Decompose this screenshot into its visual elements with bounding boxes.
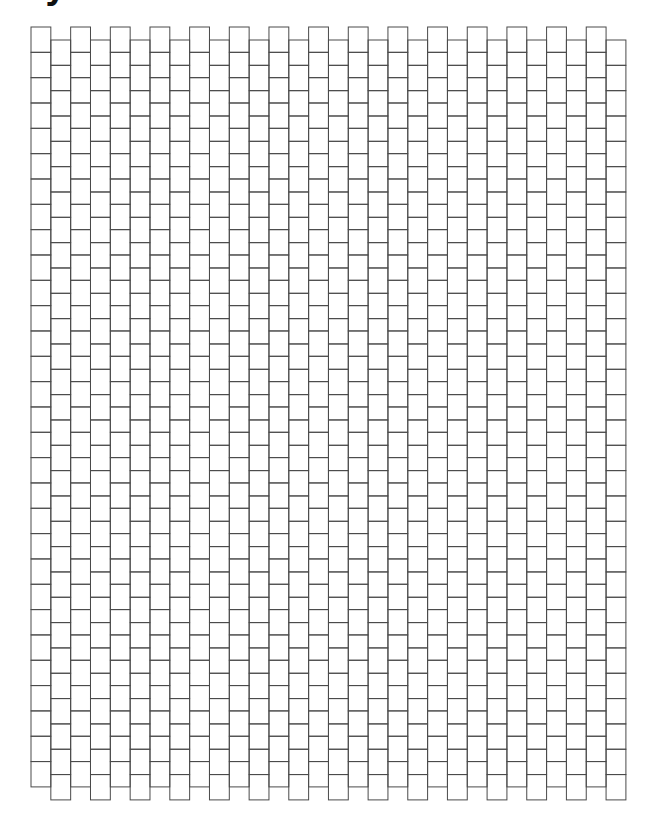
grid-cell	[31, 128, 51, 153]
grid-cell	[110, 660, 130, 685]
grid-cell	[408, 597, 428, 622]
grid-cell	[90, 699, 110, 724]
grid-cell	[328, 673, 348, 698]
grid-cell	[249, 749, 269, 774]
grid-cell	[289, 445, 309, 470]
grid-cell	[408, 116, 428, 141]
grid-cell	[507, 280, 527, 305]
grid-cell	[269, 255, 289, 280]
grid-cell	[547, 154, 567, 179]
grid-cell	[209, 521, 229, 546]
grid-cell	[467, 508, 487, 533]
grid-cell	[150, 610, 170, 635]
grid-cell	[487, 243, 507, 268]
grid-cell	[368, 420, 388, 445]
grid-cell	[388, 230, 408, 255]
grid-cell	[428, 686, 448, 711]
grid-cell	[190, 686, 210, 711]
grid-cell	[31, 255, 51, 280]
grid-cell	[190, 660, 210, 685]
grid-column	[368, 40, 388, 800]
grid-cell	[586, 356, 606, 381]
grid-cell	[190, 230, 210, 255]
grid-cell	[110, 280, 130, 305]
grid-cell	[71, 559, 91, 584]
grid-cell	[309, 356, 329, 381]
grid-cell	[31, 584, 51, 609]
grid-cell	[130, 673, 150, 698]
grid-cell	[428, 483, 448, 508]
grid-cell	[388, 356, 408, 381]
grid-cell	[229, 432, 249, 457]
grid-cell	[467, 635, 487, 660]
grid-cell	[566, 40, 586, 65]
grid-cell	[467, 154, 487, 179]
grid-cell	[408, 445, 428, 470]
grid-cell	[547, 610, 567, 635]
grid-cell	[487, 648, 507, 673]
grid-cell	[606, 65, 626, 90]
grid-cell	[71, 27, 91, 52]
grid-cell	[269, 711, 289, 736]
grid-cell	[51, 141, 71, 166]
grid-cell	[527, 699, 547, 724]
grid-cell	[586, 584, 606, 609]
grid-cell	[170, 445, 190, 470]
grid-cell	[328, 572, 348, 597]
grid-cell	[71, 736, 91, 761]
grid-cell	[90, 623, 110, 648]
grid-cell	[487, 40, 507, 65]
grid-cell	[447, 116, 467, 141]
grid-cell	[289, 648, 309, 673]
grid-cell	[487, 775, 507, 800]
grid-cell	[487, 673, 507, 698]
grid-cell	[289, 597, 309, 622]
grid-cell	[328, 192, 348, 217]
grid-cell	[269, 508, 289, 533]
grid-cell	[90, 445, 110, 470]
grid-cell	[51, 749, 71, 774]
grid-cell	[428, 382, 448, 407]
grid-cell	[348, 128, 368, 153]
grid-cell	[606, 420, 626, 445]
grid-cell	[447, 724, 467, 749]
grid-cell	[170, 623, 190, 648]
grid-cell	[428, 128, 448, 153]
grid-cell	[408, 623, 428, 648]
grid-cell	[447, 420, 467, 445]
grid-cell	[368, 775, 388, 800]
grid-cell	[170, 673, 190, 698]
grid-cell	[566, 496, 586, 521]
grid-cell	[130, 91, 150, 116]
grid-cell	[507, 458, 527, 483]
grid-cell	[447, 141, 467, 166]
grid-cell	[328, 420, 348, 445]
grid-cell	[487, 749, 507, 774]
grid-cell	[408, 648, 428, 673]
grid-cell	[130, 141, 150, 166]
grid-cell	[328, 319, 348, 344]
grid-cell	[309, 52, 329, 77]
grid-cell	[170, 65, 190, 90]
grid-cell	[388, 534, 408, 559]
grid-cell	[249, 572, 269, 597]
grid-cell	[527, 141, 547, 166]
grid-cell	[348, 584, 368, 609]
grid-cell	[31, 660, 51, 685]
grid-cell	[229, 27, 249, 52]
grid-cell	[289, 141, 309, 166]
grid-cell	[447, 471, 467, 496]
grid-cell	[150, 331, 170, 356]
grid-cell	[527, 471, 547, 496]
grid-cell	[447, 673, 467, 698]
grid-cell	[170, 572, 190, 597]
grid-cell	[51, 40, 71, 65]
grid-cell	[527, 268, 547, 293]
grid-column	[209, 40, 229, 800]
grid-cell	[51, 192, 71, 217]
grid-cell	[388, 660, 408, 685]
grid-cell	[428, 179, 448, 204]
grid-cell	[51, 775, 71, 800]
grid-cell	[190, 255, 210, 280]
grid-cell	[31, 356, 51, 381]
